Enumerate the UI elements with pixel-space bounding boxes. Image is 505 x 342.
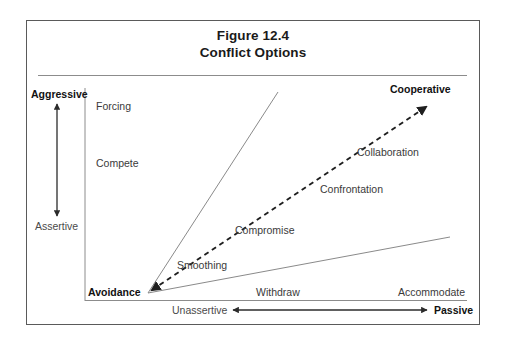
- option-label-confrontation: Confrontation: [320, 183, 383, 195]
- option-label-compete: Compete: [96, 157, 139, 169]
- corner-label-avoidance: Avoidance: [88, 286, 141, 298]
- axis-label-unassertive: Unassertive: [172, 304, 227, 316]
- option-label-smoothing: Smoothing: [177, 259, 227, 271]
- figure-container: Figure 12.4 Conflict Options Aggressive …: [0, 0, 505, 342]
- option-label-accommodate: Accommodate: [398, 286, 465, 298]
- axis-label-aggressive: Aggressive: [31, 88, 88, 100]
- option-label-forcing: Forcing: [96, 100, 131, 112]
- option-label-withdraw: Withdraw: [256, 286, 300, 298]
- option-label-compromise: Compromise: [235, 224, 295, 236]
- axis-label-passive: Passive: [434, 304, 473, 316]
- axis-label-assertive: Assertive: [35, 220, 78, 232]
- option-label-collaboration: Collaboration: [357, 146, 419, 158]
- corner-label-cooperative: Cooperative: [390, 83, 451, 95]
